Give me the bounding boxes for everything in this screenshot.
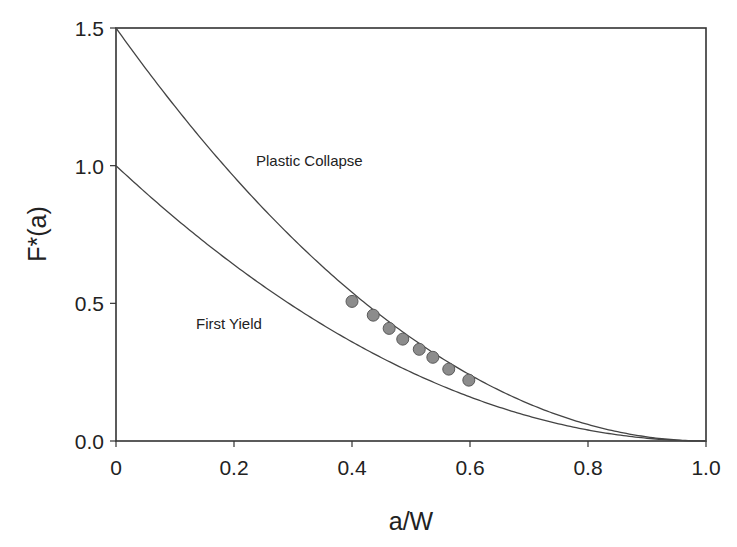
data-point [463,374,475,386]
y-tick-label: 1.5 [75,17,104,40]
tick-labels: 00.20.40.60.81.00.00.51.01.5 [75,17,721,479]
x-tick-label: 0 [110,456,122,479]
plastic-collapse-curve [116,28,706,441]
y-tick-label: 0.0 [75,430,104,453]
data-point [413,343,425,355]
x-tick-label: 1.0 [691,456,720,479]
data-point [346,295,358,307]
annotation-plastic-collapse: Plastic Collapse [256,152,363,169]
x-axis-title: a/W [389,507,434,535]
curves [116,28,706,441]
data-point [427,351,439,363]
chart: 00.20.40.60.81.00.00.51.01.5 a/W F*(a) P… [0,0,737,547]
data-point [383,322,395,334]
y-axis-title: F*(a) [23,206,51,262]
annotation-first-yield: First Yield [196,315,262,332]
plot-frame [116,28,706,441]
y-tick-label: 0.5 [75,292,104,315]
x-tick-label: 0.8 [573,456,602,479]
x-tick-label: 0.2 [219,456,248,479]
x-tick-label: 0.6 [455,456,484,479]
data-point [367,309,379,321]
y-tick-label: 1.0 [75,155,104,178]
x-tick-label: 0.4 [337,456,367,479]
data-point [443,363,455,375]
data-point [397,333,409,345]
first-yield-curve [116,166,706,441]
